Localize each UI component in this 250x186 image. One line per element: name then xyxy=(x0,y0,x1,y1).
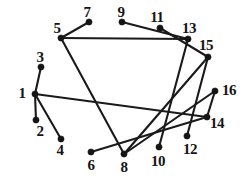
node-label-12: 12 xyxy=(183,142,197,157)
node-label-4: 4 xyxy=(56,143,63,158)
node-label-10: 10 xyxy=(151,154,165,169)
graph-node-11[interactable] xyxy=(157,25,163,31)
graph-node-10[interactable] xyxy=(156,144,162,150)
node-label-3: 3 xyxy=(36,50,43,65)
node-label-15: 15 xyxy=(199,38,213,53)
graph-node-6[interactable] xyxy=(88,149,94,155)
graph-node-3[interactable] xyxy=(38,64,44,70)
graph-node-7[interactable] xyxy=(86,19,92,25)
node-label-13: 13 xyxy=(182,21,196,36)
node-layer xyxy=(32,19,218,157)
node-label-14: 14 xyxy=(210,116,224,131)
node-label-6: 6 xyxy=(87,158,94,173)
node-label-1: 1 xyxy=(18,86,25,101)
graph-edge xyxy=(35,67,41,94)
graph-node-9[interactable] xyxy=(119,19,125,25)
graph-node-1[interactable] xyxy=(32,91,38,97)
node-label-8: 8 xyxy=(120,160,127,175)
graph-edge xyxy=(61,22,89,38)
node-label-16: 16 xyxy=(222,83,236,98)
graph-edge xyxy=(122,22,188,39)
graph-edge xyxy=(35,94,36,120)
node-label-5: 5 xyxy=(53,21,60,36)
node-link-graph-figure: 12345678910111213141516 xyxy=(0,0,250,186)
node-label-11: 11 xyxy=(150,10,163,25)
node-label-2: 2 xyxy=(36,124,43,139)
node-label-9: 9 xyxy=(117,5,124,20)
graph-edge xyxy=(61,38,124,154)
graph-node-15[interactable] xyxy=(205,54,211,60)
graph-node-5[interactable] xyxy=(58,35,64,41)
graph-node-16[interactable] xyxy=(212,88,218,94)
graph-edge xyxy=(61,38,188,39)
graph-node-12[interactable] xyxy=(184,133,190,139)
graph-node-8[interactable] xyxy=(121,151,127,157)
node-label-7: 7 xyxy=(83,5,90,20)
graph-node-13[interactable] xyxy=(185,36,191,42)
